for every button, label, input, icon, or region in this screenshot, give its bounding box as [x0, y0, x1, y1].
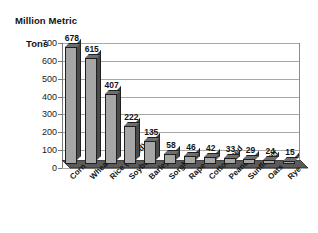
bar: [283, 161, 295, 164]
bar-front-face: [224, 158, 236, 164]
y-axis-tick: [58, 79, 62, 80]
bar-chart: Million Metric Tons 70060050040030020010…: [0, 0, 318, 233]
bar: [184, 156, 196, 164]
bar-front-face: [164, 154, 176, 164]
y-axis-tick: [58, 150, 62, 151]
bar-front-face: [263, 160, 275, 164]
bar-value-label: 407: [100, 81, 124, 90]
bar-value-label: 135: [139, 128, 163, 137]
bar-front-face: [124, 126, 136, 164]
y-axis-tick: [58, 61, 62, 62]
y-axis-tick: [58, 114, 62, 115]
y-axis-tick: [58, 43, 62, 44]
bar: [263, 160, 275, 164]
bar-side-face: [117, 86, 121, 160]
bar: [144, 141, 156, 164]
bar-value-label: 678: [60, 34, 84, 43]
bar-side-face: [77, 39, 81, 160]
bar: [224, 158, 236, 164]
bar-front-face: [243, 159, 255, 164]
bar-value-label: 222: [119, 113, 143, 122]
y-axis-tick: [58, 168, 62, 169]
bar-side-face: [97, 50, 101, 160]
bar-front-face: [144, 141, 156, 164]
y-axis-tick: [58, 97, 62, 98]
y-axis-tick: [58, 132, 62, 133]
bar: [164, 154, 176, 164]
bar: [124, 126, 136, 164]
x-axis-tick-label: Rye: [286, 165, 303, 182]
bar-front-face: [204, 157, 216, 164]
bar-value-label: 15: [278, 148, 302, 157]
bar-front-face: [184, 156, 196, 164]
bars-layer: 678Corn615Wheat407Rice (milled)222Soybea…: [0, 0, 318, 233]
bar-value-label: 615: [80, 45, 104, 54]
bar: [243, 159, 255, 164]
x-axis-tick-label-text: Corn: [68, 162, 88, 182]
bar-front-face: [85, 58, 97, 164]
bar: [65, 47, 77, 164]
bar-front-face: [283, 161, 295, 164]
x-axis-tick-label: Oats: [266, 162, 285, 181]
bar-front-face: [65, 47, 77, 164]
bar: [204, 157, 216, 164]
bar-front-face: [105, 94, 117, 164]
x-axis-tick-label: Corn: [68, 162, 88, 182]
x-axis-tick-label-text: Oats: [266, 162, 285, 181]
bar: [105, 94, 117, 164]
bar: [85, 58, 97, 164]
x-axis-tick-label-text: Rye: [286, 165, 303, 182]
